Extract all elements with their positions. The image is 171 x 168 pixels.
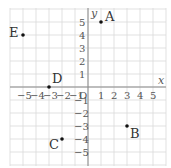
point-label: D bbox=[52, 71, 62, 86]
x-tick-label: 3 bbox=[124, 90, 130, 101]
point-marker bbox=[125, 124, 129, 128]
y-tick-label: 4 bbox=[79, 30, 85, 41]
point-marker bbox=[47, 85, 51, 89]
y-tick-label: 5 bbox=[79, 17, 85, 28]
y-tick-label: 2 bbox=[79, 56, 85, 67]
y-tick-label: −1 bbox=[74, 95, 89, 106]
point-label: A bbox=[104, 9, 115, 24]
point-label: E bbox=[9, 25, 19, 40]
y-tick-label: −2 bbox=[74, 108, 89, 119]
point-c: C bbox=[49, 137, 64, 152]
y-tick-label: 3 bbox=[79, 43, 85, 54]
point-marker bbox=[60, 137, 64, 141]
coordinate-plane: x y O −5−4−3−2−112345 54321−1−2−3−4−5 AB… bbox=[0, 0, 171, 168]
point-marker bbox=[99, 20, 103, 24]
y-tick-label: −5 bbox=[74, 147, 89, 158]
point-label: C bbox=[49, 137, 59, 152]
point-marker bbox=[21, 33, 25, 37]
y-tick-label: −3 bbox=[74, 121, 89, 132]
point-a: A bbox=[99, 9, 115, 24]
y-axis-label: y bbox=[90, 7, 98, 20]
x-axis-label: x bbox=[158, 74, 165, 87]
point-e: E bbox=[9, 25, 25, 40]
y-tick-label: −4 bbox=[74, 134, 89, 145]
point-label: B bbox=[130, 126, 140, 141]
x-tick-label: 5 bbox=[150, 90, 156, 101]
x-tick-label: 2 bbox=[111, 90, 117, 101]
x-tick-label: 4 bbox=[137, 90, 143, 101]
y-tick-label: 1 bbox=[79, 69, 85, 80]
x-tick-label: 1 bbox=[98, 90, 104, 101]
